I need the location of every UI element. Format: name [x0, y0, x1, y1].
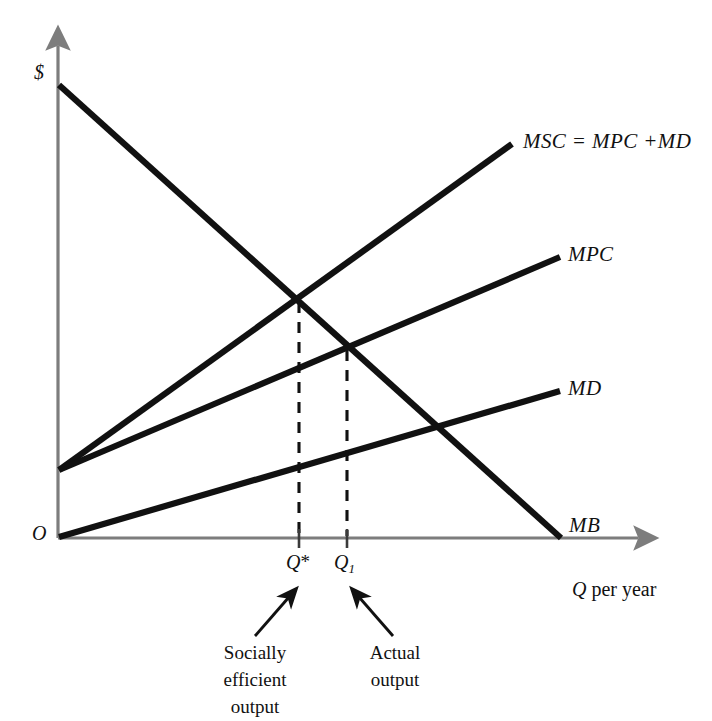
annotation-socially-efficient-output-line2: efficient	[190, 667, 320, 694]
curve-mb	[59, 85, 561, 538]
tick-label-q1: Q1	[334, 550, 355, 576]
tick-label-q1-subscript: 1	[348, 561, 355, 576]
annotation-actual-output-line2: output	[330, 667, 460, 694]
annotation-socially-efficient-output-line3: output	[190, 694, 320, 721]
tick-label-qstar-star: *	[300, 551, 310, 572]
x-axis-caption-text: per year	[586, 578, 656, 600]
annotation-arrows	[255, 589, 393, 636]
y-axis-label: $	[34, 60, 44, 86]
annotation-arrow-qstar	[255, 589, 296, 636]
annotation-actual-output: Actual output	[330, 640, 460, 694]
tick-label-qstar-symbol: Q	[286, 551, 300, 573]
annotation-socially-efficient-output: Socially efficient output	[190, 640, 320, 721]
x-axis-caption-symbol: Q	[572, 578, 586, 600]
curve-label-md: MD	[568, 375, 601, 402]
origin-label: O	[32, 521, 46, 547]
tick-label-q1-symbol: Q	[334, 551, 348, 573]
curve-label-mpc: MPC	[568, 241, 614, 268]
tick-label-qstar: Q*	[286, 550, 310, 576]
curve-label-msc: MSC = MPC +MD	[523, 128, 691, 155]
curves	[59, 85, 561, 538]
x-axis-caption: Q per year	[572, 577, 656, 603]
annotation-arrow-q1	[352, 589, 393, 636]
annotation-actual-output-line1: Actual	[330, 640, 460, 667]
curve-label-mb: MB	[569, 512, 600, 539]
annotation-socially-efficient-output-line1: Socially	[190, 640, 320, 667]
axes	[58, 46, 638, 538]
